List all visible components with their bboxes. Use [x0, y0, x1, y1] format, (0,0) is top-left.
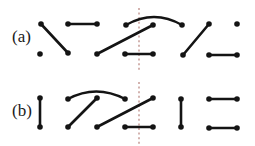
vertex: [178, 96, 184, 102]
vertex: [150, 95, 156, 101]
vertex: [65, 50, 71, 56]
vertex: [38, 21, 44, 27]
vertex: [178, 124, 184, 130]
vertex: [122, 51, 128, 57]
vertex: [37, 95, 43, 101]
vertex: [94, 95, 100, 101]
figure-background: [0, 0, 255, 146]
vertex: [65, 96, 71, 102]
vertex: [150, 22, 156, 28]
vertex: [65, 124, 71, 130]
vertex: [122, 124, 128, 130]
vertex: [94, 51, 100, 57]
vertex: [150, 51, 156, 57]
vertex: [150, 124, 156, 130]
vertex: [122, 96, 128, 102]
vertex: [206, 52, 212, 58]
vertex: [234, 21, 240, 27]
vertex: [94, 21, 100, 27]
vertex: [234, 96, 240, 102]
figure-container: (a) (b): [0, 0, 255, 146]
vertex: [94, 124, 100, 130]
vertex: [234, 52, 240, 58]
vertex: [65, 21, 71, 27]
vertex: [180, 52, 186, 58]
vertex: [37, 124, 43, 130]
vertex: [123, 22, 129, 28]
vertex: [179, 22, 185, 28]
row-b-label: (b): [12, 101, 32, 120]
row-a-label: (a): [12, 27, 31, 46]
vertex: [206, 21, 212, 27]
vertex: [234, 125, 240, 131]
matching-diagram-svg: (a) (b): [0, 0, 255, 146]
vertex: [206, 96, 212, 102]
vertex: [206, 125, 212, 131]
vertex: [37, 51, 43, 57]
